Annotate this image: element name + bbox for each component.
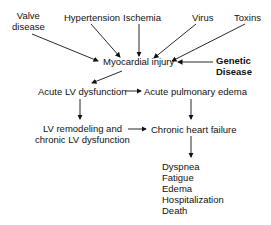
node-lv-remodeling-line2: chronic LV dysfunction: [35, 134, 130, 145]
cause-genetic-line2: Disease: [216, 66, 252, 77]
node-lv-remodeling: LV remodeling and chronic LV dysfunction: [35, 123, 130, 145]
outcome-item: Death: [162, 205, 224, 216]
arrow-hypertension-to-injury: [91, 24, 120, 57]
arrow-injury-to-acute-lv: [92, 71, 122, 83]
outcomes-list: Dyspnea Fatigue Edema Hospitalization De…: [162, 161, 224, 216]
node-lv-remodeling-line1: LV remodeling and: [35, 123, 130, 134]
outcome-item: Hospitalization: [162, 194, 224, 205]
outcome-item: Fatigue: [162, 172, 224, 183]
cause-valve-disease: Valve disease: [12, 10, 45, 32]
cause-valve-line1: Valve: [12, 10, 45, 21]
node-myocardial-injury: Myocardial injury: [103, 56, 174, 67]
cause-toxins: Toxins: [234, 12, 261, 23]
arrow-virus-to-injury: [154, 24, 196, 58]
cause-genetic-disease: Genetic Disease: [216, 55, 252, 77]
arrow-valve-to-injury: [32, 34, 98, 61]
cause-genetic-line1: Genetic: [216, 55, 252, 66]
outcome-item: Edema: [162, 183, 224, 194]
cause-virus: Virus: [192, 12, 213, 23]
cause-valve-line2: disease: [12, 21, 45, 32]
cause-hypertension: Hypertension: [64, 12, 120, 23]
arrows-layer: [0, 0, 271, 225]
node-chronic-heart-failure: Chronic heart failure: [151, 124, 237, 135]
node-acute-pulmonary-edema: Acute pulmonary edema: [144, 86, 247, 97]
cause-ischemia: Ischemia: [123, 12, 161, 23]
node-acute-lv-dysfunction: Acute LV dysfunction: [38, 86, 127, 97]
outcome-item: Dyspnea: [162, 161, 224, 172]
